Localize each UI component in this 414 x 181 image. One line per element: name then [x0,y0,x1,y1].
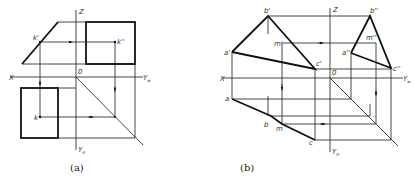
figure-a: Z X 0 Yw YH k' k'' k (a) [8,8,151,173]
label-z-b: Z [332,6,338,14]
label-yw-b: Yw [403,75,411,84]
label-x-a: X [8,74,14,82]
label-z-a: Z [78,8,84,16]
figure-b: Z X 0 Yw YH b' a' c' m' b'' a'' c'' m'' … [219,6,411,173]
point-k-diag [114,116,116,118]
label-m-top: m [276,125,283,133]
label-b-top: b [264,121,269,129]
label-yh-a: YH [78,146,85,155]
top-view-line [232,99,315,140]
label-m-front: m' [274,40,283,48]
label-c-front: c' [316,60,322,68]
point-k-front [39,41,41,43]
label-origin-b: 0 [332,69,337,77]
diagonal-45-a [76,77,143,145]
label-m-side: m'' [366,34,377,42]
diagonal-45-b [330,78,398,146]
label-b-side: b'' [370,7,378,15]
label-a-top: a [225,95,229,103]
caption-b: (b) [240,162,254,173]
label-c-side: c'' [393,65,401,73]
label-yw-a: Yw [143,74,151,83]
side-view-rect-a [86,22,135,64]
label-k-top: k [34,114,39,122]
point-k-top [39,116,41,118]
label-k-side: k'' [117,38,125,46]
side-view-triangle [351,16,391,68]
point-k-side [114,41,116,43]
label-c-top: c [309,139,313,147]
label-origin-a: 0 [78,68,83,76]
projection-diagram: Z X 0 Yw YH k' k'' k (a) [0,0,414,181]
label-x-b: X [219,75,225,83]
caption-a: (a) [70,162,84,173]
label-yh-b: YH [332,148,339,157]
label-a-front: a' [224,49,230,57]
label-b-front: b' [264,7,270,15]
label-k-front: k' [33,34,39,42]
label-a-side: a'' [342,49,350,57]
top-view-rect-a [21,88,58,138]
